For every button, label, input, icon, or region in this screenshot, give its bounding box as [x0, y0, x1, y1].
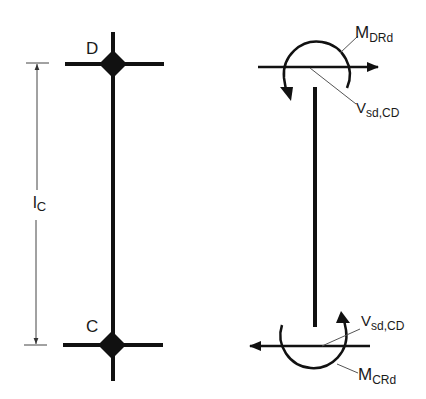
moment-arrowhead-top: [280, 87, 293, 101]
moment-arrowhead-bottom: [336, 311, 350, 323]
label-m-drd: MDRd: [355, 24, 393, 41]
dimension-label-lc: lC: [33, 194, 46, 211]
joint-c-icon: [98, 331, 126, 359]
frame-diagram: [0, 0, 426, 399]
joint-d-icon: [99, 50, 127, 78]
node-label-d: D: [86, 40, 98, 57]
label-m-crd: MCRd: [358, 366, 396, 383]
node-label-c: C: [86, 318, 98, 335]
leader-mcrd: [337, 364, 358, 373]
label-v-sd-cd-bottom: Vsd,CD: [361, 313, 404, 329]
right-free-body: [250, 36, 378, 373]
left-frame: [63, 32, 164, 381]
leader-vsd-bottom: [322, 329, 360, 346]
label-v-sd-cd-top: Vsd,CD: [356, 100, 399, 116]
moment-arc-bottom-icon: [280, 320, 346, 368]
